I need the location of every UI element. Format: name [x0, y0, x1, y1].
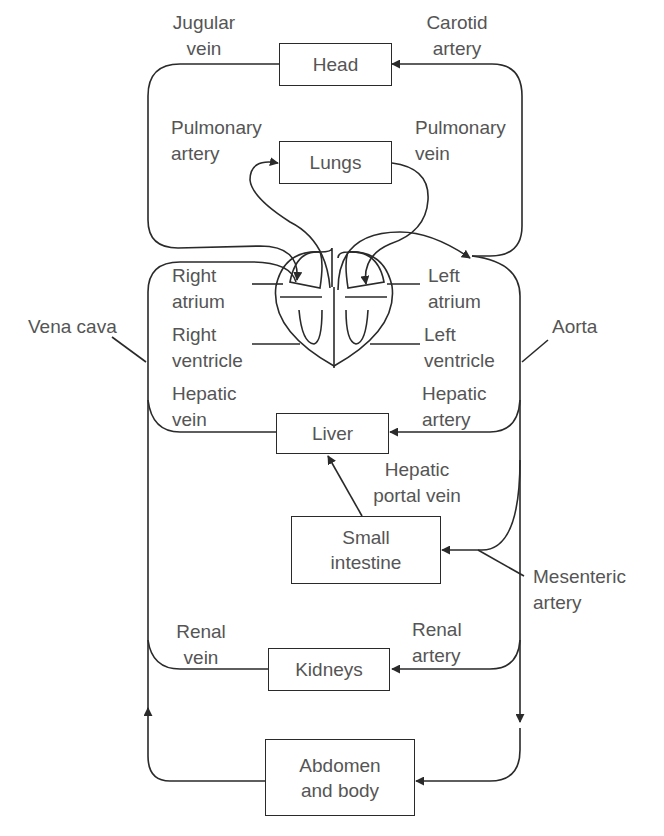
jugular-vein-line: [148, 64, 297, 280]
liver-box: Liver: [276, 413, 389, 454]
kidneys-box: Kidneys: [268, 648, 390, 691]
hepatic-portal-vein-label: Hepaticportal vein: [362, 457, 472, 509]
pulmonary-artery-label: Pulmonaryartery: [171, 115, 262, 167]
small-intestine-box: Small intestine: [291, 516, 441, 584]
hepatic-portal-vein-line: [328, 456, 362, 516]
circulatory-diagram: Head Lungs Liver Small intestine Kidneys…: [0, 0, 664, 836]
aorta-leader: [522, 340, 548, 362]
lungs-box: Lungs: [279, 141, 392, 184]
left-atrium-label: Leftatrium: [428, 263, 481, 315]
left-ventricle-label: Leftventricle: [424, 322, 495, 374]
head-box: Head: [279, 43, 392, 86]
vena-cava-label: Vena cava: [28, 314, 117, 340]
liver-label: Liver: [312, 421, 353, 446]
right-ventricle-label: Rightventricle: [172, 322, 243, 374]
jugular-vein-label: Jugularvein: [164, 10, 244, 62]
left-ventricle-inner: [346, 310, 368, 344]
hepatic-vein-label: Hepaticvein: [172, 381, 236, 433]
abdomen-return-line: [148, 708, 266, 781]
vena-cava-leader: [112, 337, 146, 362]
renal-vein-label: Renalvein: [166, 619, 236, 671]
right-atrium-label: Rightatrium: [172, 263, 225, 315]
mesenteric-leader: [478, 550, 524, 576]
pulmonary-vein-label: Pulmonaryvein: [415, 115, 506, 167]
right-ventricle-inner: [299, 310, 322, 344]
abdomen-box: Abdomen and body: [265, 739, 415, 816]
small-intestine-label-1: Small: [342, 525, 390, 550]
abdomen-supply-line: [416, 728, 520, 781]
hepatic-artery-label: Hepaticartery: [422, 381, 486, 433]
small-intestine-label-2: intestine: [331, 550, 402, 575]
mesenteric-artery-label: Mesentericartery: [533, 564, 626, 616]
lungs-label: Lungs: [310, 150, 362, 175]
carotid-artery-label: Carotidartery: [412, 10, 502, 62]
head-label: Head: [313, 52, 358, 77]
abdomen-label-2: and body: [301, 778, 379, 803]
kidneys-label: Kidneys: [295, 657, 363, 682]
aorta-label: Aorta: [552, 314, 597, 340]
heart-left-chamber: [346, 252, 384, 288]
renal-artery-label: Renalartery: [412, 617, 462, 669]
abdomen-label-1: Abdomen: [299, 753, 380, 778]
